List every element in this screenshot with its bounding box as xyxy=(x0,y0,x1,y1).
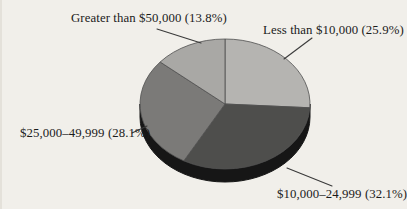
leader-line-greater-than-50000 xyxy=(157,29,201,43)
leader-line-10000-24999 xyxy=(287,168,332,186)
callout-label-less-than-10000: Less than $10,000 (25.9%) xyxy=(263,23,404,38)
leader-line-less-than-10000 xyxy=(284,38,312,59)
callout-label-10000-24999: $10,000–24,999 (32.1%) xyxy=(277,187,407,202)
callout-label-25000-49999: $25,000–49,999 (28.1%) xyxy=(20,126,150,141)
callout-label-greater-than-50000: Greater than $50,000 (13.8%) xyxy=(71,11,227,26)
